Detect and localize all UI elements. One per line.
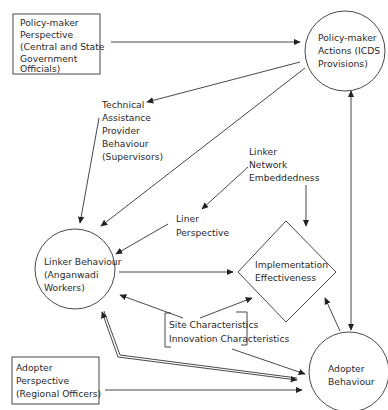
svg-text:Site Characteristics Inn: Site Characteristics Innovation Characte… [169,319,289,344]
node-label-line: Site Characteristics [169,319,258,330]
node-label-line: Provider [102,125,140,136]
node-label-line: Behaviour [328,376,375,387]
node-label-line: Perspective [16,375,70,386]
node-policy-maker-perspective: Policy-maker Perspective (Central and St… [13,14,107,74]
node-label-line: Embeddedness [249,172,320,183]
node-label-line: Actions (ICDS [318,45,380,56]
diagram-canvas: Policy-maker Perspective (Central and St… [0,0,388,410]
node-linker-network-embeddedness: Linker Network Embeddedness [249,146,320,183]
node-label-line: Perspective [176,227,230,238]
edge-technical-to-linker [80,118,99,223]
edge-adopter-to-implementation [325,298,340,331]
node-linker-behaviour: Linker Behaviour (Anganwadi Workers) [35,229,124,309]
node-label-line: Liner [176,213,199,224]
edge-characteristics-to-implementation [200,298,252,318]
node-label-line: Policy-maker [318,32,377,43]
node-adopter-behaviour: Adopter Behaviour [309,332,388,410]
node-label-line: Policy-maker [20,17,79,28]
node-label-line: Adopter [328,363,365,374]
node-policy-maker-actions: Policy-maker Actions (ICDS Provisions) [305,11,385,91]
node-technical-assistance: Technical Assistance Provider Behaviour … [101,99,163,162]
node-label-line: Officials) [20,63,60,74]
node-label-line: Linker [249,146,277,157]
node-label-line: Effectiveness [255,272,316,283]
node-liner-perspective: Liner Perspective [176,213,230,238]
edge-network-to-liner [202,167,248,209]
svg-text:Liner Perspective: Liner Perspective [176,213,230,238]
node-label-line: Linker Behaviour [44,256,122,267]
node-label-line: Provisions) [318,58,368,69]
node-adopter-perspective: Adopter Perspective (Regional Officers) [12,357,101,404]
node-characteristics: Site Characteristics Innovation Characte… [165,312,289,347]
node-label-line: (Central and State [20,41,105,52]
node-label-line: Network [249,159,288,170]
node-label-line: Behaviour [102,138,149,149]
node-label-line: Assistance [102,112,151,123]
node-label-line: (Anganwadi [44,269,99,280]
edge-characteristics-to-adopter [232,349,305,374]
node-label-line: Implementation [255,259,328,270]
node-label-line: Technical [101,99,144,110]
node-label-line: (Supervisors) [102,151,163,162]
node-label-line: Innovation Characteristics [169,333,289,344]
svg-text:Technical Assistance: Technical Assistance Provider Behaviour … [101,99,163,162]
node-label-line: Workers) [44,282,85,293]
node-label-line: Adopter [16,362,53,373]
node-implementation-effectiveness: Implementation Effectiveness [238,221,336,322]
edge-actions-to-technical [147,62,300,102]
edge-characteristics-to-linker [120,295,183,318]
node-label-line: Perspective [20,29,74,40]
svg-text:Linker Network Emb: Linker Network Embeddedness [249,146,320,183]
edge-liner-to-linker [116,224,168,254]
node-label-line: (Regional Officers) [16,388,101,399]
